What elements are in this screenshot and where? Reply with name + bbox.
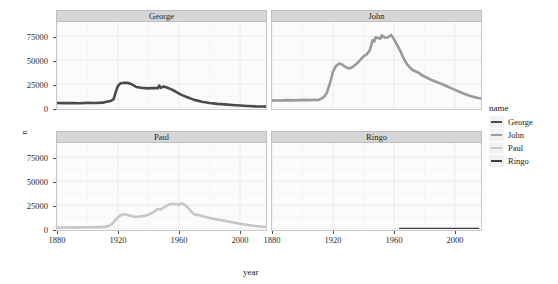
x-tick-mark (179, 231, 180, 234)
facet-plot-area (56, 22, 267, 110)
x-tick-label: 1920 (98, 236, 138, 245)
x-tick-mark (57, 231, 58, 234)
faceted-line-chart: n year 025000500007500002500050000750001… (0, 0, 558, 284)
facet-plot-area (56, 143, 267, 231)
legend-color-swatch (491, 147, 502, 150)
x-tick-mark (455, 231, 456, 234)
legend-color-swatch (491, 160, 502, 163)
series-line-paul (57, 203, 266, 227)
x-tick-label: 1920 (313, 236, 353, 245)
legend-color-swatch (491, 121, 502, 124)
facet-panel-george: George (56, 10, 267, 110)
legend-items: GeorgeJohnPaulRingo (489, 116, 533, 167)
y-axis-title: n (20, 123, 29, 143)
legend-label: George (508, 118, 533, 127)
facet-plot-area (271, 143, 482, 231)
legend: name GeorgeJohnPaulRingo (489, 104, 533, 168)
x-tick-mark (272, 231, 273, 234)
facet-panel-paul: Paul (56, 131, 267, 231)
legend-item-john[interactable]: John (489, 129, 533, 141)
y-tick-label: 50000 (0, 57, 48, 66)
legend-color-swatch (491, 134, 502, 137)
x-tick-mark (394, 231, 395, 234)
legend-label: Paul (508, 144, 523, 153)
legend-label: John (508, 131, 524, 140)
x-tick-mark (333, 231, 334, 234)
facet-strip-label: Paul (56, 131, 267, 143)
y-tick-label: 75000 (0, 154, 48, 163)
legend-key (489, 129, 504, 141)
x-tick-label: 2000 (435, 236, 475, 245)
facet-strip-label: John (271, 10, 482, 22)
y-tick-label: 25000 (0, 81, 48, 90)
facet-strip-label: George (56, 10, 267, 22)
legend-key (489, 142, 504, 154)
x-tick-mark (118, 231, 119, 234)
legend-key (489, 116, 504, 128)
legend-item-george[interactable]: George (489, 116, 533, 128)
legend-item-paul[interactable]: Paul (489, 142, 533, 154)
y-tick-label: 25000 (0, 202, 48, 211)
x-tick-label: 1880 (252, 236, 292, 245)
facet-strip-label: Ringo (271, 131, 482, 143)
x-tick-label: 1960 (374, 236, 414, 245)
legend-item-ringo[interactable]: Ringo (489, 155, 533, 167)
y-tick-label: 0 (0, 226, 48, 235)
x-axis-title: year (243, 268, 259, 277)
x-tick-label: 1960 (159, 236, 199, 245)
legend-key (489, 155, 504, 167)
y-tick-label: 50000 (0, 178, 48, 187)
facet-panel-john: John (271, 10, 482, 110)
y-tick-label: 75000 (0, 33, 48, 42)
facet-panel-ringo: Ringo (271, 131, 482, 231)
x-tick-mark (240, 231, 241, 234)
series-line-george (57, 83, 266, 107)
x-tick-label: 1880 (37, 236, 77, 245)
series-line-john (272, 35, 481, 101)
y-tick-label: 0 (0, 105, 48, 114)
legend-label: Ringo (508, 157, 529, 166)
legend-title: name (489, 104, 533, 113)
facet-plot-area (271, 22, 482, 110)
